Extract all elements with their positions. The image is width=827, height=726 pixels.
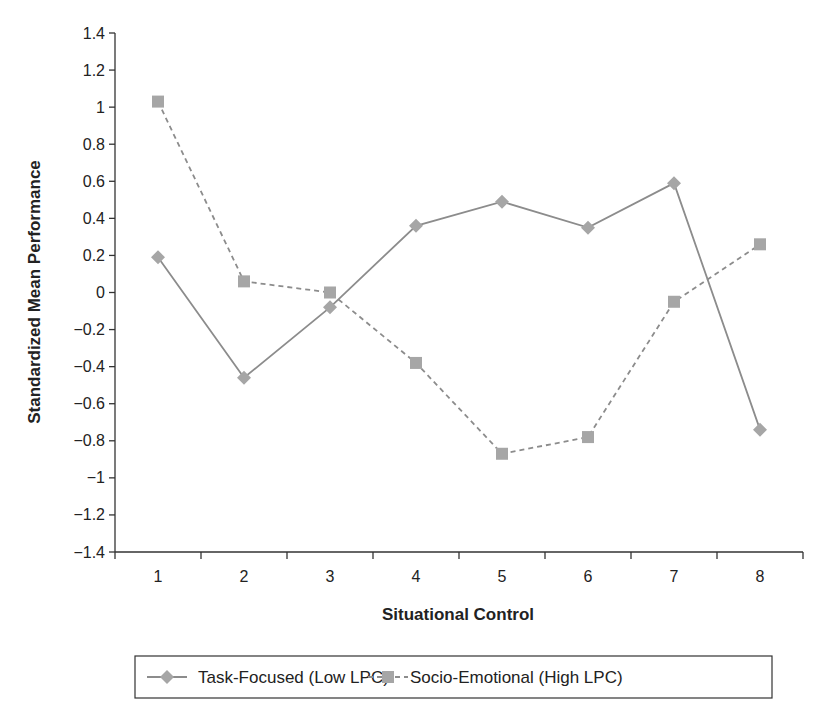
series-square	[152, 96, 766, 460]
square-marker	[238, 275, 250, 287]
square-marker	[668, 296, 680, 308]
square-marker	[324, 287, 336, 299]
y-tick-label: −0.4	[73, 358, 105, 375]
y-tick-label: −1.2	[73, 506, 105, 523]
diamond-marker	[581, 221, 595, 235]
line-chart: 1.41.210.80.60.40.20−0.2−0.4−0.6−0.8−1−1…	[0, 0, 827, 726]
y-tick-label: 0.6	[83, 173, 105, 190]
square-marker	[754, 238, 766, 250]
diamond-marker	[495, 195, 509, 209]
y-tick-label: −0.8	[73, 432, 105, 449]
y-tick-label: 0	[96, 284, 105, 301]
series-layer	[151, 96, 767, 460]
y-tick-label: 1.4	[83, 25, 105, 42]
y-tick-label: 0.8	[83, 136, 105, 153]
diamond-marker	[151, 250, 165, 264]
y-tick-label: 0.2	[83, 247, 105, 264]
x-tick-label: 3	[326, 568, 335, 585]
y-tick-label: −1.4	[73, 544, 105, 561]
x-tick-label: 7	[670, 568, 679, 585]
x-tick-label: 4	[412, 568, 421, 585]
y-tick-label: −0.2	[73, 321, 105, 338]
square-marker	[410, 357, 422, 369]
square-marker	[496, 448, 508, 460]
legend-label: Socio-Emotional (High LPC)	[410, 668, 623, 687]
x-tick-label: 6	[584, 568, 593, 585]
square-marker	[582, 431, 594, 443]
square-marker	[152, 96, 164, 108]
y-tick-label: −0.6	[73, 395, 105, 412]
square-marker	[382, 671, 394, 683]
x-axis-title: Situational Control	[382, 605, 534, 624]
diamond-marker	[667, 176, 681, 190]
x-tick-label: 1	[154, 568, 163, 585]
y-tick-label: 1.2	[83, 62, 105, 79]
y-tick-label: 1	[96, 99, 105, 116]
x-axis: 12345678	[115, 552, 803, 585]
legend-label: Task-Focused (Low LPC)	[198, 668, 389, 687]
legend: Task-Focused (Low LPC)Socio-Emotional (H…	[135, 656, 772, 698]
y-axis: 1.41.210.80.60.40.20−0.2−0.4−0.6−0.8−1−1…	[73, 25, 115, 561]
x-tick-label: 5	[498, 568, 507, 585]
y-tick-label: 0.4	[83, 210, 105, 227]
y-tick-label: −1	[87, 469, 105, 486]
x-tick-label: 8	[756, 568, 765, 585]
diamond-marker	[753, 423, 767, 437]
y-axis-title: Standardized Mean Performance	[25, 160, 44, 424]
x-tick-label: 2	[240, 568, 249, 585]
